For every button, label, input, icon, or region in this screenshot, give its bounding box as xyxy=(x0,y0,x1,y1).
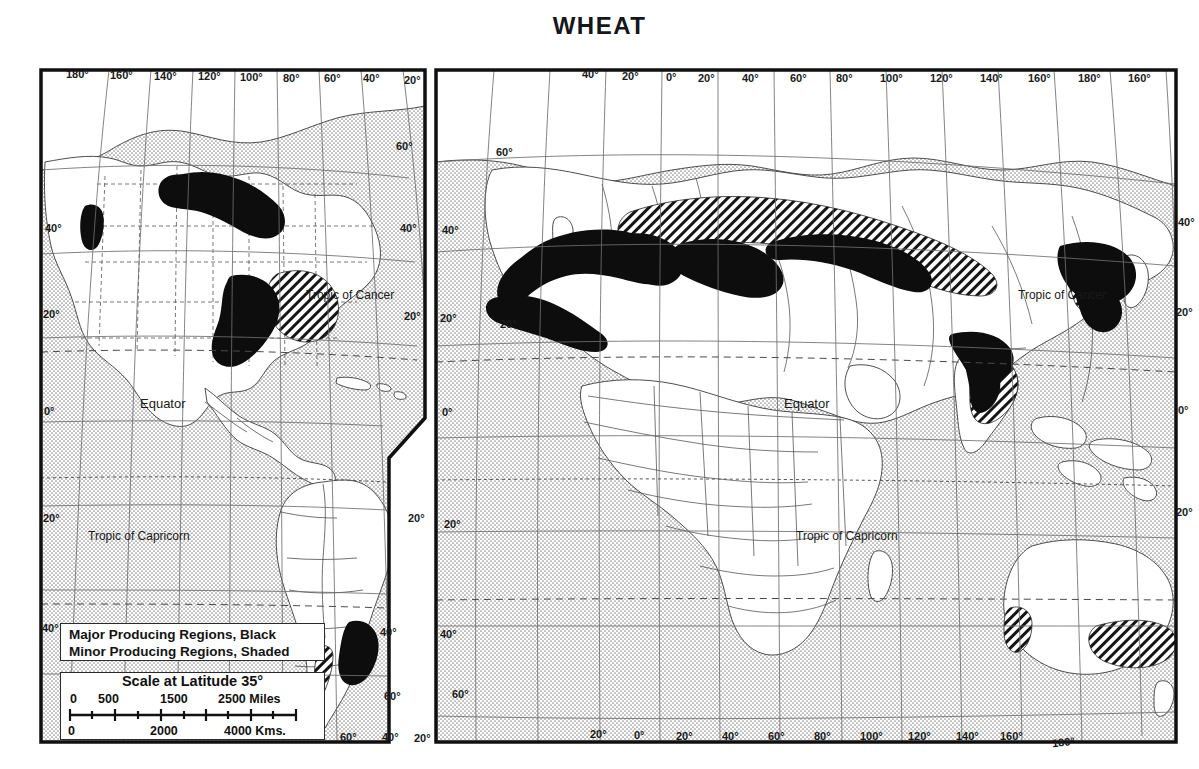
scale-miles-2500: 2500 Miles xyxy=(218,692,281,706)
legend-major-label: Major Producing Regions, Black xyxy=(69,626,318,643)
scale-km-4000: 4000 Kms. xyxy=(224,724,286,738)
scale-km-2000: 2000 xyxy=(150,724,178,738)
eastern-hemisphere-map[interactable] xyxy=(432,66,1180,746)
page-title: WHEAT xyxy=(0,12,1199,40)
scale-km-0: 0 xyxy=(68,724,75,738)
legend-minor-label: Minor Producing Regions, Shaded xyxy=(69,643,318,660)
scale-miles-500: 500 xyxy=(98,692,119,706)
legend-box: Major Producing Regions, Black Minor Pro… xyxy=(60,623,325,661)
scale-miles-0: 0 xyxy=(70,692,77,706)
east-right-lat-40n: 40° xyxy=(1178,216,1195,228)
east-map-svg xyxy=(432,66,1180,746)
scale-title: Scale at Latitude 35° xyxy=(60,673,325,689)
scale-ruler xyxy=(60,708,325,722)
scale-miles-1500: 1500 xyxy=(160,692,188,706)
